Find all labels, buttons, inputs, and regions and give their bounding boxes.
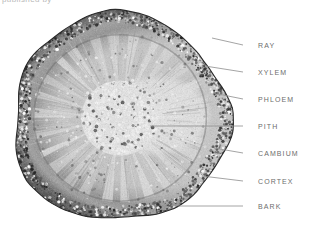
- bark-granule: [166, 200, 168, 202]
- bark-granule: [86, 24, 88, 26]
- bark-granule: [203, 174, 204, 175]
- bark-granule: [131, 21, 134, 24]
- bark-granule: [99, 211, 101, 213]
- bark-granule: [22, 104, 23, 105]
- bark-granule: [73, 207, 76, 210]
- bark-granule: [25, 88, 28, 91]
- bark-granule: [121, 214, 123, 216]
- bark-granule: [94, 22, 95, 23]
- bark-granule: [23, 108, 25, 110]
- bark-granule: [178, 43, 180, 45]
- bark-granule: [64, 201, 67, 204]
- bark-granule: [134, 10, 136, 12]
- bark-granule: [22, 148, 24, 150]
- bark-granule: [218, 129, 221, 132]
- bark-granule: [185, 194, 188, 197]
- bark-granule: [113, 8, 114, 9]
- bark-granule: [97, 207, 98, 208]
- bark-granule: [126, 208, 127, 209]
- bark-granule: [210, 165, 212, 167]
- bark-granule: [195, 61, 198, 64]
- bark-granule: [220, 103, 222, 105]
- bark-granule: [124, 217, 126, 219]
- bark-granule: [60, 194, 61, 195]
- bark-granule: [221, 107, 222, 108]
- bark-granule: [72, 30, 73, 31]
- bark-granule: [94, 16, 96, 18]
- bark-granule: [104, 210, 106, 212]
- bark-granule: [127, 208, 130, 211]
- bark-granule: [143, 216, 145, 218]
- bark-granule: [63, 43, 65, 45]
- bark-granule: [19, 151, 22, 154]
- bark-granule: [59, 44, 61, 46]
- bark-granule: [67, 33, 70, 36]
- bark-granule: [66, 30, 68, 32]
- bark-granule: [26, 91, 28, 93]
- bark-granule: [213, 82, 215, 84]
- bark-granule: [109, 12, 111, 14]
- bark-granule: [19, 120, 21, 122]
- bark-granule: [63, 35, 65, 37]
- bark-granule: [26, 154, 29, 157]
- bark-granule: [22, 90, 23, 91]
- bark-granule: [37, 66, 38, 67]
- bark-granule: [114, 214, 117, 217]
- bark-granule: [122, 205, 125, 208]
- bark-granule: [74, 33, 76, 35]
- bark-granule: [27, 115, 29, 117]
- bark-granule: [162, 26, 163, 27]
- bark-granule: [50, 46, 51, 47]
- bark-granule: [42, 58, 45, 61]
- bark-granule: [31, 84, 32, 85]
- bark-granule: [71, 203, 73, 205]
- bark-granule: [151, 21, 152, 22]
- bark-granule: [175, 203, 176, 204]
- bark-granule: [224, 115, 226, 117]
- bark-granule: [224, 108, 225, 109]
- bark-granule: [184, 190, 187, 193]
- bark-granule: [164, 30, 167, 33]
- bark-granule: [136, 24, 138, 26]
- bark-granule: [34, 192, 36, 194]
- bark-granule: [57, 200, 60, 203]
- bark-granule: [222, 111, 225, 114]
- bark-granule: [189, 189, 191, 191]
- bark-granule: [192, 176, 194, 178]
- bark-granule: [26, 126, 27, 127]
- bark-granule: [138, 25, 141, 28]
- bark-granule: [140, 15, 143, 18]
- bark-granule: [24, 127, 26, 129]
- bark-granule: [208, 84, 211, 87]
- bark-granule: [235, 121, 236, 122]
- bark-granule: [152, 206, 154, 208]
- bark-granule: [226, 112, 228, 114]
- bark-granule: [52, 40, 53, 41]
- bark-granule: [74, 201, 76, 203]
- bark-granule: [57, 193, 58, 194]
- bark-granule: [94, 211, 97, 214]
- bark-granule: [26, 176, 28, 178]
- bark-granule: [86, 27, 88, 29]
- bark-granule: [188, 182, 189, 183]
- bark-granule: [107, 214, 109, 216]
- bark-granule: [41, 57, 43, 59]
- bark-granule: [18, 87, 19, 88]
- bark-granule: [139, 216, 141, 218]
- bark-granule: [26, 123, 28, 125]
- bark-granule: [90, 214, 92, 216]
- bark-granule: [229, 124, 231, 126]
- bark-granule: [17, 103, 18, 104]
- bark-granule: [166, 208, 168, 210]
- bark-granule: [92, 205, 95, 208]
- bark-granule: [192, 55, 194, 57]
- bark-granule: [189, 54, 190, 55]
- bark-granule: [64, 32, 66, 34]
- bark-granule: [202, 163, 205, 166]
- bark-granule: [35, 182, 37, 184]
- bark-granule: [164, 199, 166, 201]
- bark-granule: [24, 138, 26, 140]
- bark-granule: [191, 187, 193, 189]
- bark-granule: [39, 188, 41, 190]
- bark-granule: [96, 10, 97, 11]
